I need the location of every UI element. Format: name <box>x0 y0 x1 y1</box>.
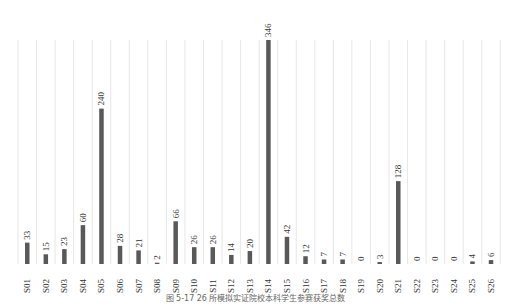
bar-s08 <box>155 263 160 264</box>
bar-s07 <box>136 250 141 264</box>
category-label: S13 <box>245 279 255 294</box>
bar-s01 <box>25 243 30 264</box>
value-label: 4 <box>467 253 477 258</box>
category-label: S03 <box>59 279 69 294</box>
category-label: S24 <box>449 279 459 294</box>
bar-s09 <box>173 221 178 264</box>
category-label: S17 <box>319 279 329 294</box>
value-label: 346 <box>263 23 273 37</box>
bar-s18 <box>340 259 345 264</box>
value-label: 26 <box>189 235 199 245</box>
bar-chart: 3315236024028212662626142034642127703128… <box>0 0 511 304</box>
category-label: S21 <box>393 279 403 293</box>
category-label: S14 <box>263 279 273 294</box>
category-label: S06 <box>115 279 125 294</box>
x-axis-labels: S01S02S03S04S05S06S07S08S09S10S11S12S13S… <box>22 279 496 294</box>
category-label: S08 <box>152 279 162 294</box>
value-label: 0 <box>449 256 459 261</box>
value-label: 42 <box>282 225 292 234</box>
value-label: 0 <box>430 256 440 261</box>
value-label: 3 <box>375 254 385 259</box>
bar-s11 <box>211 247 216 264</box>
value-label: 23 <box>59 237 69 247</box>
category-label: S12 <box>226 279 236 293</box>
bar-s15 <box>285 237 290 264</box>
value-label: 21 <box>134 238 144 247</box>
category-label: S26 <box>486 279 496 294</box>
gridlines <box>18 40 500 264</box>
value-label: 14 <box>226 242 236 252</box>
category-label: S15 <box>282 279 292 294</box>
bar-s02 <box>44 254 49 264</box>
category-label: S25 <box>467 279 477 294</box>
category-label: S19 <box>356 279 366 294</box>
value-label: 33 <box>22 230 32 240</box>
value-label: 12 <box>301 244 311 253</box>
value-label: 66 <box>171 209 181 219</box>
value-label: 7 <box>319 251 329 256</box>
value-label: 26 <box>208 235 218 245</box>
category-label: S22 <box>412 279 422 293</box>
bar-s13 <box>248 251 253 264</box>
value-label: 0 <box>412 256 422 261</box>
bar-s06 <box>118 246 123 264</box>
category-label: S23 <box>430 279 440 294</box>
value-label: 15 <box>41 242 51 252</box>
bar-s16 <box>303 256 308 264</box>
bar-s03 <box>62 249 67 264</box>
bar-s05 <box>99 109 104 264</box>
category-label: S02 <box>41 279 51 293</box>
category-label: S04 <box>78 279 88 294</box>
category-label: S09 <box>171 279 181 294</box>
bar-s10 <box>192 247 197 264</box>
bar-s17 <box>322 259 327 264</box>
bar-s14 <box>266 40 271 264</box>
bar-s12 <box>229 255 234 264</box>
bar-s20 <box>377 262 382 264</box>
value-label: 0 <box>356 256 366 261</box>
category-label: S16 <box>301 279 311 294</box>
bar-s04 <box>81 225 86 264</box>
category-label: S18 <box>338 279 348 294</box>
category-label: S07 <box>134 279 144 294</box>
value-label: 60 <box>78 213 88 223</box>
category-label: S10 <box>189 279 199 294</box>
value-label: 28 <box>115 233 125 243</box>
value-label: 7 <box>338 251 348 256</box>
bar-s25 <box>470 261 475 264</box>
bar-s26 <box>489 260 494 264</box>
value-label: 6 <box>486 252 496 257</box>
figure-caption: 图 5-17 26 所模拟实证院校本科学生参赛获奖总数 <box>0 292 511 303</box>
value-label: 20 <box>245 239 255 249</box>
category-label: S20 <box>375 279 385 294</box>
value-label: 2 <box>152 255 162 260</box>
category-label: S11 <box>208 279 218 293</box>
value-label: 128 <box>393 164 403 178</box>
value-label: 240 <box>96 92 106 106</box>
bar-s21 <box>396 181 401 264</box>
category-label: S05 <box>96 279 106 294</box>
category-label: S01 <box>22 279 32 293</box>
